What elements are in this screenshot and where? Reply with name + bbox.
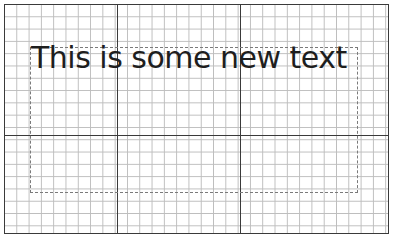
text-box-content[interactable]: This is some new text (31, 40, 347, 75)
